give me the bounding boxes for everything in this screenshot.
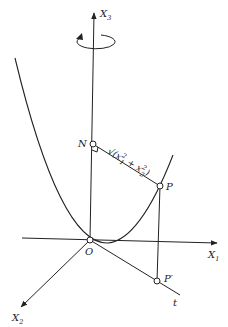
svg-text:P: P bbox=[165, 181, 173, 192]
svg-text:X1: X1 bbox=[207, 249, 219, 263]
distance-label: √(x21 + x22) bbox=[105, 144, 153, 181]
svg-text:O: O bbox=[85, 246, 93, 257]
x3-axis: X3 bbox=[90, 8, 111, 240]
svg-text:X3: X3 bbox=[99, 8, 111, 22]
svg-text:N: N bbox=[77, 138, 88, 149]
right-angle-mark bbox=[92, 147, 98, 152]
rotation-arrow-icon bbox=[76, 33, 115, 49]
svg-text:X2: X2 bbox=[11, 312, 23, 326]
svg-text:t: t bbox=[173, 297, 178, 308]
diagram-figure: X3 X1 X2 t √(x21 + x22) N P O bbox=[0, 0, 228, 327]
x2-axis: X2 bbox=[11, 240, 90, 326]
svg-text:P′: P′ bbox=[163, 273, 174, 284]
pp-prime-segment bbox=[157, 186, 160, 281]
point-n: N bbox=[77, 138, 96, 149]
